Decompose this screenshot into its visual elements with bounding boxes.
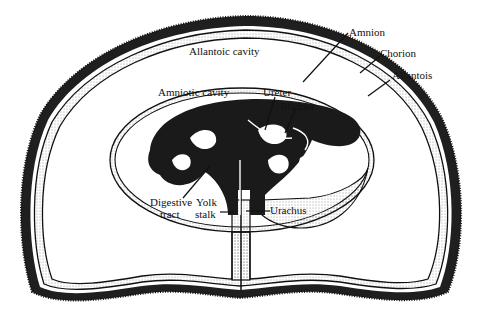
label-amnion: Amnion <box>349 26 386 38</box>
label-amniotic-cavity: Amniotic cavity <box>158 86 230 98</box>
label-ureter: Ureter <box>263 86 291 98</box>
label-urachus: Urachus <box>270 204 307 216</box>
label-chorion: Chorion <box>380 47 417 59</box>
label-digestive-tract-line1: Digestive <box>150 196 192 208</box>
label-yolk-stalk-line1: Yolk <box>196 196 217 208</box>
label-digestive-tract-line2: tract <box>160 208 180 220</box>
label-allantoic-cavity: Allantoic cavity <box>189 45 260 57</box>
embryo-membranes-diagram: Amnion Chorion Allantois Allantoic cavit… <box>0 0 485 326</box>
label-bladder: Bladder <box>280 100 315 112</box>
label-yolk-stalk-line2: stalk <box>195 208 216 220</box>
label-allantois: Allantois <box>392 69 432 81</box>
